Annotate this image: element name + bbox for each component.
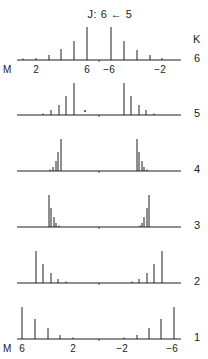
m-tick-label: −6 (166, 343, 177, 354)
panel-k5 (17, 83, 181, 117)
m-axis-label: M (3, 64, 11, 75)
panel-k1 (17, 307, 181, 341)
k-value-label: 1 (194, 331, 200, 343)
k-value-label: 4 (194, 163, 200, 175)
m-tick-label: −2 (116, 343, 127, 354)
panel-k4 (17, 139, 181, 173)
stick-spectrum-plot (0, 0, 208, 359)
k-value-label: 2 (194, 275, 200, 287)
m-tick-label: 6 (84, 64, 90, 75)
dot-marker (84, 110, 86, 112)
m-tick-label: 2 (33, 64, 39, 75)
panel-k6 (17, 27, 181, 62)
panel-k3 (17, 195, 181, 229)
m-tick-label: −2 (154, 64, 165, 75)
panel-k2 (17, 251, 181, 285)
m-axis-label: M (3, 343, 11, 354)
m-tick-label: 2 (70, 343, 76, 354)
k-value-label: 6 (194, 52, 200, 64)
k-value-label: 3 (194, 219, 200, 231)
m-tick-label: 6 (19, 343, 25, 354)
k-value-label: 5 (194, 107, 200, 119)
m-tick-label: −6 (103, 64, 114, 75)
